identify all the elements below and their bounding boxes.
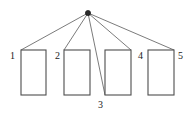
edge-to-rect-5	[88, 13, 174, 50]
star-topology-diagram: 1 2 3 4 5	[0, 0, 192, 122]
label-rect-2: 2	[55, 50, 60, 61]
label-rect-5: 5	[178, 50, 183, 61]
rect-block-4[interactable]	[148, 50, 174, 95]
rect-block-2[interactable]	[64, 50, 90, 95]
hub-node-icon[interactable]	[85, 10, 90, 15]
rect-block-3[interactable]	[105, 50, 131, 95]
label-rect-3: 3	[98, 99, 103, 110]
rect-block-1[interactable]	[21, 50, 46, 95]
label-rect-4: 4	[138, 50, 143, 61]
edge-to-rect-1	[21, 13, 88, 50]
diagram-canvas: 1 2 3 4 5	[0, 0, 192, 122]
label-rect-1: 1	[10, 50, 15, 61]
edge-to-rect-2	[64, 13, 88, 50]
rectangle-blocks	[21, 50, 174, 95]
